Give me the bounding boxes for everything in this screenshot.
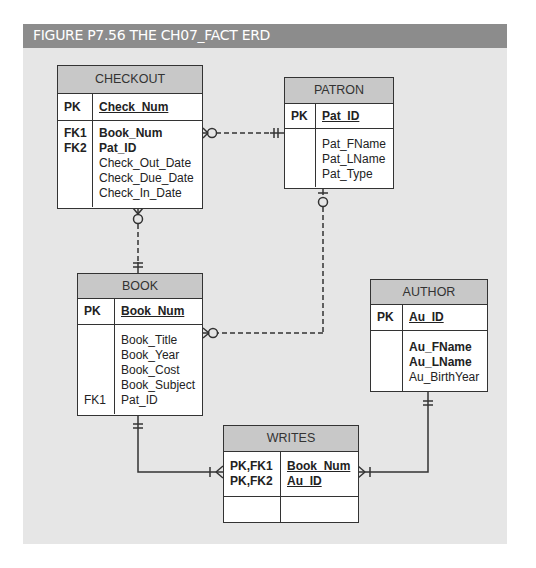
pk-row: PK Book_Num — [78, 299, 202, 325]
pk-label: PK — [78, 299, 115, 324]
attribute: Au_BirthYear — [409, 370, 487, 385]
key-column: FK1 — [78, 325, 115, 414]
pk-attribute: Book_Num — [287, 459, 358, 474]
entity-book: BOOK PK Book_Num FK1 Book_Title Book_Yea… — [77, 273, 203, 416]
pk-attribute: Au_ID — [287, 474, 358, 489]
key-column — [285, 129, 316, 187]
attribute: Book_Subject — [121, 378, 202, 393]
fk-label: FK2 — [64, 141, 92, 156]
entity-name: BOOK — [78, 274, 202, 299]
attribute: Check_Due_Date — [99, 171, 202, 186]
fk-label: FK1 — [64, 126, 92, 141]
attribute: Pat_ID — [121, 393, 202, 408]
attribute: Book_Num — [99, 126, 202, 141]
attribute-column: Book_Title Book_Year Book_Cost Book_Subj… — [115, 325, 202, 414]
pk-row: PK Pat_ID — [285, 104, 393, 129]
pk-row: PK Check_Num — [58, 94, 202, 121]
pk-label: PK — [58, 94, 93, 120]
attribute-column: Book_Num Au_ID — [281, 452, 358, 496]
attribute: Pat_LName — [322, 152, 393, 167]
pk-attribute: Check_Num — [93, 94, 202, 120]
attribute: Pat_FName — [322, 137, 393, 152]
attribute: Book_Cost — [121, 363, 202, 378]
attribute: Pat_Type — [322, 167, 393, 182]
attribute: Check_Out_Date — [99, 156, 202, 171]
entity-name: PATRON — [285, 78, 393, 104]
entity-name: AUTHOR — [371, 280, 487, 305]
attribute-column — [281, 497, 358, 522]
pk-label: PK — [371, 305, 403, 330]
attribute: Check_In_Date — [99, 186, 202, 201]
attribute: Pat_ID — [99, 141, 202, 156]
key-column — [224, 497, 281, 522]
figure-title-bar: FIGURE P7.56 THE CH07_FACT ERD — [23, 24, 507, 48]
pk-attribute: Pat_ID — [316, 104, 393, 128]
attribute: Book_Title — [121, 333, 202, 348]
entity-checkout: CHECKOUT PK Check_Num FK1 FK2 Book_Num P… — [57, 65, 203, 209]
attribute-rows: FK1 Book_Title Book_Year Book_Cost Book_… — [78, 325, 202, 414]
attribute-rows: Au_FName Au_LName Au_BirthYear — [371, 331, 487, 391]
figure-title: FIGURE P7.56 THE CH07_FACT ERD — [33, 27, 270, 43]
attribute-rows: FK1 FK2 Book_Num Pat_ID Check_Out_Date C… — [58, 121, 202, 207]
attribute-column: Pat_FName Pat_LName Pat_Type — [316, 129, 393, 187]
attribute-rows — [224, 497, 358, 522]
attribute: Au_LName — [409, 355, 487, 370]
key-column: FK1 FK2 — [58, 121, 93, 207]
pk-attribute: Au_ID — [403, 305, 487, 330]
key-column: PK,FK1 PK,FK2 — [224, 452, 281, 496]
pk-attribute: Book_Num — [115, 299, 202, 324]
entity-name: WRITES — [224, 426, 358, 452]
entity-name: CHECKOUT — [58, 66, 202, 94]
pk-fk-label: PK,FK2 — [230, 474, 280, 489]
attribute: Book_Year — [121, 348, 202, 363]
entity-writes: WRITES PK,FK1 PK,FK2 Book_Num Au_ID — [223, 425, 359, 523]
attribute-column: Book_Num Pat_ID Check_Out_Date Check_Due… — [93, 126, 202, 207]
pk-row: PK,FK1 PK,FK2 Book_Num Au_ID — [224, 452, 358, 497]
attribute-column: Au_FName Au_LName Au_BirthYear — [403, 331, 487, 391]
fk-label: FK1 — [84, 393, 114, 408]
entity-author: AUTHOR PK Au_ID Au_FName Au_LName Au_Bir… — [370, 279, 488, 392]
pk-fk-label: PK,FK1 — [230, 459, 280, 474]
pk-label: PK — [285, 104, 316, 128]
key-column — [371, 331, 403, 391]
attribute-rows: Pat_FName Pat_LName Pat_Type — [285, 129, 393, 187]
attribute: Au_FName — [409, 340, 487, 355]
entity-patron: PATRON PK Pat_ID Pat_FName Pat_LName Pat… — [284, 77, 394, 189]
pk-row: PK Au_ID — [371, 305, 487, 331]
